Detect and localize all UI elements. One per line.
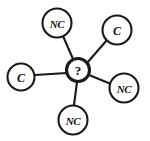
edge-hub-to-nc-top-left bbox=[63, 36, 73, 59]
node-hub-unknown[interactable]: ? bbox=[67, 59, 90, 82]
node-label-nc-bottom: NC bbox=[65, 115, 82, 127]
node-label-c-left: C bbox=[17, 71, 26, 85]
node-label-hub: ? bbox=[75, 63, 82, 78]
edge-hub-to-nc-bottom-right bbox=[89, 75, 111, 84]
diagram-canvas: NC C C NC NC ? bbox=[0, 0, 150, 141]
node-label-nc-top-left: NC bbox=[49, 18, 66, 30]
node-nc-top-left[interactable]: NC bbox=[43, 9, 72, 38]
edge-hub-to-nc-bottom bbox=[74, 82, 77, 105]
node-label-nc-bottom-right: NC bbox=[116, 83, 133, 95]
node-c-top-right[interactable]: C bbox=[103, 16, 132, 45]
node-nc-bottom[interactable]: NC bbox=[59, 106, 88, 135]
node-label-c-top-right: C bbox=[113, 24, 122, 38]
node-c-left[interactable]: C bbox=[8, 64, 35, 91]
node-nc-bottom-right[interactable]: NC bbox=[110, 74, 139, 103]
node-link-diagram: NC C C NC NC ? bbox=[0, 0, 150, 141]
edge-hub-to-c-top-right bbox=[87, 40, 107, 63]
edge-hub-to-c-left bbox=[35, 73, 67, 75]
